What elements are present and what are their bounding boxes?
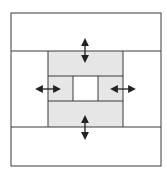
- block-diagram: [0, 0, 167, 177]
- center-cell: [73, 76, 98, 101]
